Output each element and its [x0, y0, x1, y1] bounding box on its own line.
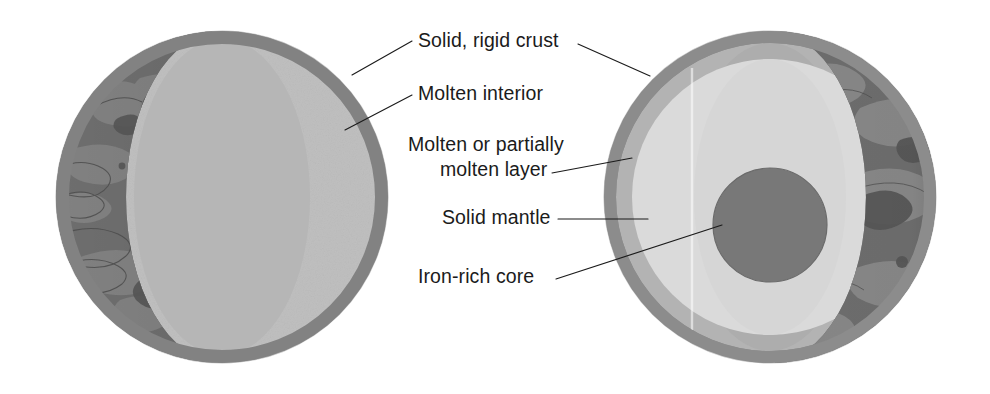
label-molten-layer-line2: molten layer — [440, 158, 548, 180]
leader-crust-right — [578, 44, 650, 76]
leader-crust-left — [352, 41, 412, 75]
label-solid-mantle: Solid mantle — [442, 206, 551, 228]
label-iron-rich-core: Iron-rich core — [418, 265, 534, 287]
label-solid-rigid-crust: Solid, rigid crust — [418, 29, 559, 51]
right-sphere — [600, 25, 950, 371]
label-molten-interior: Molten interior — [418, 82, 543, 104]
label-molten-layer-line1: Molten or partially — [408, 133, 564, 155]
right-sphere-grain — [600, 25, 950, 371]
diagram-canvas: Solid, rigid crust Molten interior Molte… — [0, 0, 990, 394]
left-sphere-grain — [50, 25, 400, 371]
left-sphere — [48, 25, 400, 371]
planetary-interior-diagram: Solid, rigid crust Molten interior Molte… — [0, 0, 990, 394]
label-group: Solid, rigid crust Molten interior Molte… — [408, 29, 564, 287]
